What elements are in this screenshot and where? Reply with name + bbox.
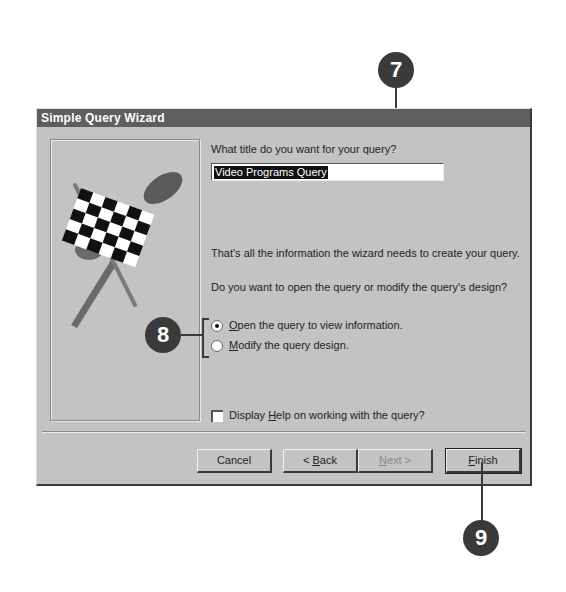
- dialog-title: Simple Query Wizard: [41, 111, 165, 125]
- callout-9: 9: [463, 520, 499, 556]
- checkered-flag-icon: [51, 140, 199, 420]
- help-checkbox[interactable]: [211, 410, 223, 422]
- access-key-m: M: [229, 339, 238, 351]
- radio-button-selected[interactable]: [211, 320, 223, 332]
- radio-open-query[interactable]: Open the query to view information.: [211, 319, 431, 335]
- button-separator: [42, 431, 525, 433]
- help-checkbox-row[interactable]: Display Help on working with the query?: [211, 409, 451, 425]
- simple-query-wizard-dialog: Simple Query Wizard What title d: [36, 108, 532, 486]
- callout-8: 8: [145, 317, 181, 353]
- callout-8-leader: [181, 334, 203, 336]
- cancel-button[interactable]: Cancel: [197, 449, 272, 473]
- next-button[interactable]: Next >: [358, 449, 433, 473]
- query-title-value: Video Programs Query: [214, 166, 328, 179]
- callout-9-leader: [481, 462, 483, 524]
- query-title-input[interactable]: Video Programs Query: [211, 163, 444, 181]
- title-prompt-label: What title do you want for your query?: [211, 143, 396, 155]
- info-text: That's all the information the wizard ne…: [211, 247, 520, 259]
- question-text: Do you want to open the query or modify …: [211, 281, 507, 293]
- radio-button-unselected[interactable]: [211, 340, 223, 352]
- access-key-h: H: [268, 409, 276, 421]
- help-checkbox-label: elp on working with the query?: [276, 409, 425, 421]
- finish-button[interactable]: Finish: [446, 449, 521, 473]
- callout-7: 7: [378, 52, 414, 88]
- access-key-o: O: [229, 319, 238, 331]
- radio-open-query-label: pen the query to view information.: [238, 319, 403, 331]
- radio-modify-design-label: odify the query design.: [238, 339, 349, 351]
- radio-modify-design[interactable]: Modify the query design.: [211, 339, 431, 355]
- back-button[interactable]: < Back: [283, 449, 358, 473]
- title-bar[interactable]: Simple Query Wizard: [37, 109, 530, 127]
- wizard-illustration-panel: [50, 139, 200, 421]
- callout-8-bracket: [202, 318, 204, 358]
